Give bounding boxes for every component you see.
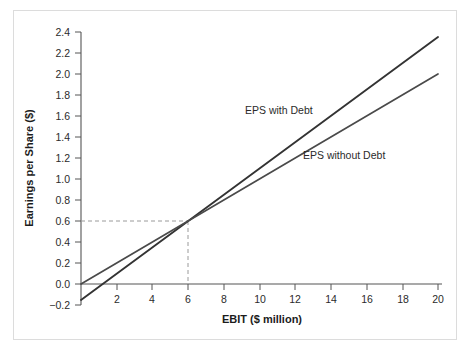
x-tick-label-16: 16 [361, 293, 373, 305]
y-tick-label-1.4: 1.4 [55, 131, 70, 143]
x-tick-label-18: 18 [397, 293, 409, 305]
y-tick-label-2.0: 2.0 [55, 68, 70, 80]
y-tick-label-1.8: 1.8 [55, 89, 70, 101]
y-tick-label-1.0: 1.0 [55, 173, 70, 185]
y-axis-title: Earnings per Share ($) [23, 109, 35, 227]
y-tick-label-0.8: 0.8 [55, 194, 70, 206]
x-tick-label-4: 4 [149, 293, 155, 305]
y-tick-label-0.0: 0.0 [55, 278, 70, 290]
y-tick-label-2.4: 2.4 [55, 26, 70, 38]
y-tick-label-1.6: 1.6 [55, 110, 70, 122]
series-line-eps-with-debt [81, 37, 438, 300]
y-tick-label-2.2: 2.2 [55, 47, 70, 59]
x-tick-label-10: 10 [254, 293, 266, 305]
y-tick-label--0.2: −0.2 [49, 299, 70, 311]
x-tick-label-14: 14 [325, 293, 337, 305]
series-label-eps-with-debt: EPS with Debt [245, 104, 313, 116]
figure-root: 2.4 2.2 2.0 1.8 1.6 1.4 1.2 1.0 0.8 0.6 … [0, 0, 470, 355]
y-tick-label-0.4: 0.4 [55, 236, 70, 248]
eps-ebit-chart: 2.4 2.2 2.0 1.8 1.6 1.4 1.2 1.0 0.8 0.6 … [0, 0, 470, 355]
series-label-eps-without-debt: EPS without Debt [303, 149, 385, 161]
x-tick-label-6: 6 [185, 293, 191, 305]
y-tick-label-0.6: 0.6 [55, 215, 70, 227]
x-tick-label-8: 8 [221, 293, 227, 305]
y-tick-label-0.2: 0.2 [55, 257, 70, 269]
y-tick-label-1.2: 1.2 [55, 152, 70, 164]
x-axis: 2 4 6 8 10 12 14 16 18 20 EBIT ($ millio… [81, 284, 444, 325]
y-axis: 2.4 2.2 2.0 1.8 1.6 1.4 1.2 1.0 0.8 0.6 … [23, 26, 81, 311]
x-axis-title: EBIT ($ million) [222, 313, 302, 325]
x-tick-label-12: 12 [289, 293, 301, 305]
x-tick-label-20: 20 [432, 293, 444, 305]
x-tick-label-2: 2 [114, 293, 120, 305]
